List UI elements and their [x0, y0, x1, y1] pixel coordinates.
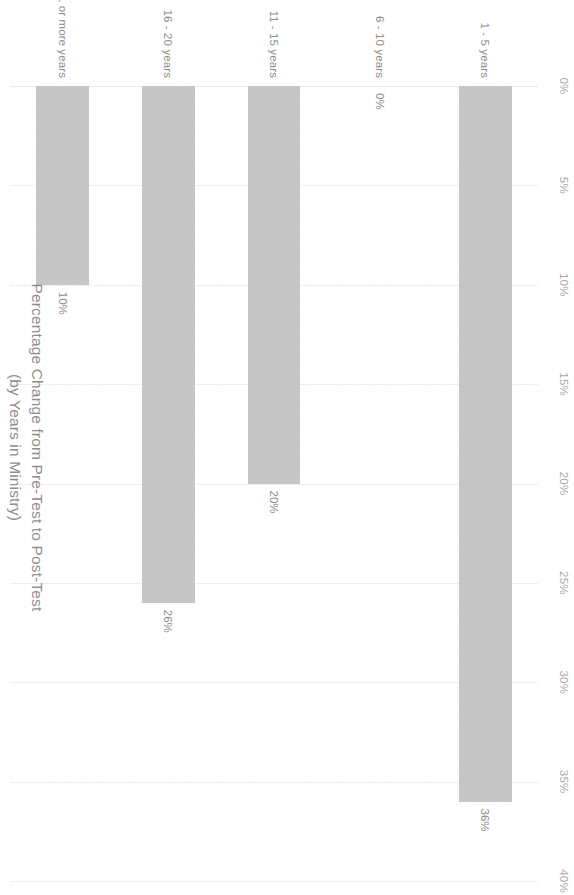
- category-label: 6 - 10 years: [374, 16, 386, 78]
- scanned-page: 0%5%10%15%20%25%30%35%40% 1 - 5 years36%…: [0, 0, 574, 895]
- x-axis-ticks: 0%5%10%15%20%25%30%35%40%: [538, 86, 574, 881]
- bar-value-label: 26%: [162, 610, 174, 633]
- x-tick-label: 0%: [558, 77, 570, 94]
- x-tick-label: 25%: [558, 571, 570, 595]
- bar-value-label: 10%: [57, 292, 69, 315]
- bar-value-label: 20%: [268, 491, 280, 514]
- x-tick-label: 5%: [558, 177, 570, 194]
- bar-value-label: 36%: [479, 809, 491, 832]
- bar-row: 11 - 15 years20%: [248, 86, 301, 881]
- x-tick-label: 10%: [558, 273, 570, 297]
- bar-row: 1 - 5 years36%: [459, 86, 512, 881]
- bar-chart: 0%5%10%15%20%25%30%35%40% 1 - 5 years36%…: [0, 0, 574, 895]
- category-label: 11 - 15 years: [268, 10, 280, 78]
- bar-row: 6 - 10 years0%: [353, 86, 406, 881]
- bar[interactable]: [459, 86, 512, 802]
- bar[interactable]: [248, 86, 301, 484]
- x-tick-label: 40%: [558, 869, 570, 893]
- chart-title: Percentage Change from Pre-Test to Post-…: [26, 0, 48, 895]
- x-tick-label: 20%: [558, 472, 570, 496]
- category-label: 16 - 20 years: [162, 10, 174, 78]
- bar[interactable]: [142, 86, 195, 603]
- gridline: [10, 881, 538, 882]
- plot-area: 1 - 5 years36%6 - 10 years0%11 - 15 year…: [10, 86, 538, 881]
- chart-subtitle: (by Years in Ministry): [4, 0, 26, 895]
- bar-rows: 1 - 5 years36%6 - 10 years0%11 - 15 year…: [10, 86, 538, 881]
- x-tick-label: 15%: [558, 372, 570, 396]
- bar-row: 16 - 20 years26%: [142, 86, 195, 881]
- x-tick-label: 35%: [558, 770, 570, 794]
- chart-title-block: Percentage Change from Pre-Test to Post-…: [4, 0, 48, 895]
- bar-value-label: 0%: [374, 93, 386, 110]
- category-label: 21 or more years: [57, 0, 69, 78]
- x-tick-label: 30%: [558, 670, 570, 694]
- chart-canvas: 0%5%10%15%20%25%30%35%40% 1 - 5 years36%…: [0, 0, 574, 895]
- category-label: 1 - 5 years: [479, 23, 491, 78]
